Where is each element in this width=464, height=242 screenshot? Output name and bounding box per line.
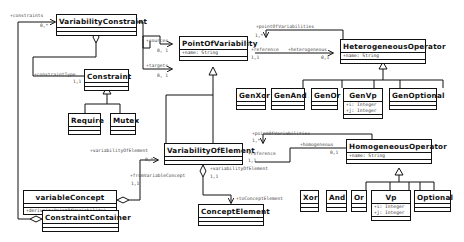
class-name: GenAnd bbox=[272, 89, 304, 101]
attributes-compartment: +name: String bbox=[347, 152, 431, 159]
class-xor[interactable]: Xor bbox=[300, 190, 319, 212]
operations-compartment bbox=[237, 105, 265, 109]
multiplicity-label: 1,* bbox=[255, 33, 263, 38]
role-label: +sources bbox=[146, 38, 168, 43]
attribute: +j: Integer bbox=[346, 108, 380, 114]
class-vp[interactable]: Vp +i: Integer +j: Integer bbox=[371, 190, 411, 221]
class-or[interactable]: Or bbox=[351, 190, 367, 212]
role-label: +targets bbox=[146, 63, 168, 68]
class-constraint[interactable]: Constraint bbox=[84, 69, 129, 91]
class-gen-and[interactable]: GenAnd bbox=[271, 88, 305, 110]
operations-compartment bbox=[352, 207, 366, 211]
generalization-arrow bbox=[209, 67, 217, 75]
attributes-compartment: +i: Integer +j: Integer bbox=[344, 101, 382, 114]
class-variability-of-element[interactable]: VariabilityOfElement bbox=[164, 143, 243, 165]
multiplicity-label: 0,1 bbox=[321, 55, 329, 60]
operations-compartment bbox=[390, 105, 436, 109]
class-name: HeterogeneousOperator bbox=[341, 40, 425, 52]
role-label: +toConceptElement bbox=[236, 196, 283, 201]
class-gen-vp[interactable]: GenVp +i: Integer +j: Integer bbox=[343, 88, 383, 119]
role-label: +homogeneous bbox=[300, 142, 333, 147]
operations-compartment bbox=[301, 207, 318, 211]
operations-compartment bbox=[312, 105, 337, 109]
class-constraint-container[interactable]: ConstraintContainer bbox=[42, 210, 119, 232]
attributes-compartment: +i: Integer +j: Integer bbox=[372, 203, 410, 216]
role-label: +reference bbox=[248, 151, 276, 156]
multiplicity-label: 1,1 bbox=[73, 79, 81, 84]
class-optional[interactable]: Optional bbox=[414, 190, 451, 212]
class-point-of-variability[interactable]: PointOfVariability +name: String bbox=[179, 36, 248, 61]
class-name: GenOr bbox=[312, 89, 337, 101]
class-name: Xor bbox=[301, 191, 318, 203]
role-label: +reference bbox=[251, 47, 279, 52]
multiplicity-label: 0, 1 bbox=[157, 73, 168, 78]
class-gen-xor[interactable]: GenXor bbox=[236, 88, 266, 110]
multiplicity-label: 0,1 bbox=[330, 150, 338, 155]
class-name: And bbox=[327, 191, 346, 203]
operations-compartment bbox=[344, 114, 382, 118]
class-name: Vp bbox=[372, 191, 410, 203]
operations-compartment bbox=[347, 159, 431, 163]
attribute: +name: String bbox=[343, 53, 379, 58]
operations-compartment bbox=[57, 31, 136, 35]
role-label: +constraints bbox=[10, 13, 43, 18]
attributes-compartment: +name: String bbox=[180, 49, 247, 56]
generalization-arrow bbox=[395, 168, 403, 175]
operations-compartment bbox=[85, 86, 128, 90]
operations-compartment bbox=[272, 105, 304, 109]
class-gen-or[interactable]: GenOr bbox=[311, 88, 338, 110]
class-concept-element[interactable]: ConceptElement bbox=[198, 204, 264, 226]
attributes-compartment: +name: String bbox=[341, 52, 425, 59]
multiplicity-label: 0, 1 bbox=[157, 48, 168, 53]
role-label: +variabilityOfElement bbox=[90, 148, 148, 153]
operations-compartment bbox=[327, 207, 346, 211]
operations-compartment bbox=[180, 56, 247, 60]
class-name: GenOptional bbox=[390, 89, 436, 101]
multiplicity-label: 1,1 bbox=[251, 55, 259, 60]
attribute: +j: Integer bbox=[374, 210, 408, 216]
class-heterogeneous-operator[interactable]: HeterogeneousOperator +name: String bbox=[340, 39, 426, 64]
class-name: HomogeneousOperator bbox=[347, 140, 431, 152]
class-and[interactable]: And bbox=[326, 190, 347, 212]
class-name: PointOfVariability bbox=[180, 37, 247, 49]
class-mutex[interactable]: Mutex bbox=[110, 113, 136, 135]
role-label: +fromVariableConcept bbox=[130, 173, 185, 178]
attribute: +name: String bbox=[182, 50, 218, 55]
operations-compartment bbox=[199, 221, 263, 225]
operations-compartment bbox=[372, 216, 410, 220]
class-variability-constraint[interactable]: VariabilityConstraint bbox=[56, 14, 137, 36]
multiplicity-label: 0,* bbox=[145, 157, 153, 162]
class-name: Constraint bbox=[85, 70, 128, 82]
role-label: +pointOfVariabilities bbox=[256, 24, 314, 29]
class-homogeneous-operator[interactable]: HomogeneousOperator +name: String bbox=[346, 139, 432, 164]
assoc-pov-points bbox=[266, 30, 343, 44]
class-require[interactable]: Require bbox=[68, 113, 101, 135]
class-name: ConstraintContainer bbox=[43, 211, 118, 223]
class-name: VariabilityConstraint bbox=[57, 15, 136, 27]
assoc-to-concept-element bbox=[203, 177, 231, 203]
multiplicity-label: 1,1 bbox=[248, 158, 256, 163]
multiplicity-label: 1,1 bbox=[210, 174, 218, 179]
operations-compartment bbox=[43, 227, 118, 231]
class-name: Require bbox=[69, 114, 100, 126]
class-name: GenXor bbox=[237, 89, 265, 101]
operations-compartment bbox=[415, 207, 450, 211]
operations-compartment bbox=[341, 59, 425, 63]
role-label: +constraintType bbox=[34, 72, 76, 77]
class-name: variableConcept bbox=[24, 191, 116, 203]
class-name: Optional bbox=[415, 191, 450, 203]
class-name: VariabilityOfElement bbox=[165, 144, 242, 156]
class-name: Or bbox=[352, 191, 366, 203]
role-label: +heterogeneous bbox=[288, 47, 327, 52]
assoc-variability-of-element bbox=[129, 160, 158, 200]
aggregation-diamond bbox=[30, 216, 42, 222]
aggregation-diamond bbox=[117, 197, 129, 203]
class-name: GenVp bbox=[344, 89, 382, 101]
operations-compartment bbox=[111, 130, 135, 134]
operations-compartment bbox=[69, 130, 100, 134]
class-gen-optional[interactable]: GenOptional bbox=[389, 88, 437, 110]
multiplicity-label: 1,* bbox=[252, 138, 260, 143]
operations-compartment bbox=[165, 160, 242, 164]
role-label: +pointOfVariabilities bbox=[252, 131, 310, 136]
attribute: +name: String bbox=[349, 153, 385, 158]
